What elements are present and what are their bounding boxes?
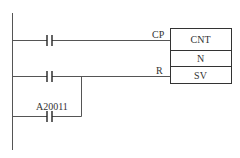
box-row-n: N: [170, 53, 231, 64]
r-input-label: R: [156, 66, 163, 76]
contact-rung1-icon: [47, 35, 52, 46]
cp-input-label: CP: [152, 30, 164, 40]
box-row-sv: SV: [170, 70, 231, 81]
contact-a20011-icon: [47, 111, 52, 122]
box-row-cnt: CNT: [170, 34, 231, 45]
contact-a20011-label: A20011: [36, 102, 68, 112]
contact-rung2-icon: [47, 71, 52, 82]
